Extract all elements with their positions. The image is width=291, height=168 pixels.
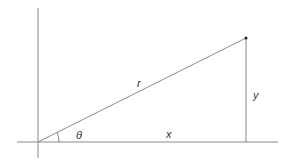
angle-theta-arc xyxy=(57,133,59,143)
diagram-svg: r y θ x xyxy=(0,0,291,168)
point-marker xyxy=(245,37,248,40)
label-theta: θ xyxy=(76,129,82,141)
hypotenuse-r-line xyxy=(38,38,246,142)
polar-coordinate-diagram: r y θ x xyxy=(0,0,291,168)
label-x: x xyxy=(165,128,172,140)
label-r: r xyxy=(137,77,142,89)
label-y: y xyxy=(252,89,260,101)
